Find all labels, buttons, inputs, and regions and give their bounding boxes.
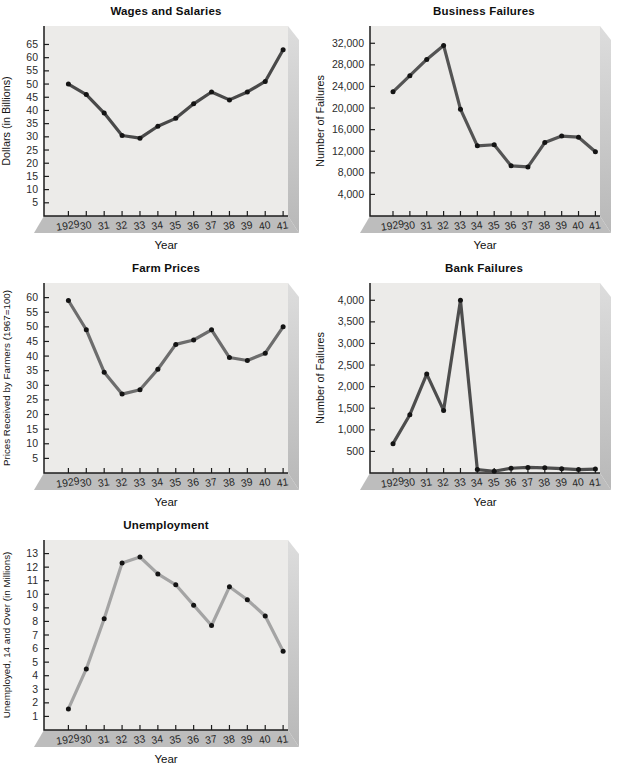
- svg-text:37: 37: [521, 218, 535, 232]
- plot-area: 5101520253035404550556065192930313233343…: [26, 26, 299, 233]
- data-point: [137, 554, 142, 559]
- data-point: [424, 372, 429, 377]
- data-point: [155, 367, 160, 372]
- svg-text:40: 40: [571, 218, 585, 232]
- y-axis-label: Unemployed, 14 and Over (in Millions): [1, 552, 12, 719]
- data-point: [509, 163, 514, 168]
- svg-text:8: 8: [32, 615, 38, 627]
- plot-area: 4,0008,00012,00016,00020,00024,00028,000…: [332, 26, 611, 233]
- data-point: [209, 327, 214, 332]
- data-point: [559, 466, 564, 471]
- svg-text:35: 35: [26, 364, 38, 376]
- svg-text:65: 65: [26, 38, 38, 50]
- svg-text:50: 50: [26, 78, 38, 90]
- data-point: [407, 73, 412, 78]
- svg-text:30: 30: [403, 218, 417, 232]
- svg-text:4,000: 4,000: [338, 188, 364, 200]
- data-point: [155, 124, 160, 129]
- svg-text:15: 15: [26, 170, 38, 182]
- plot-area: 5001,0001,5002,0002,5003,0003,5004,00019…: [338, 283, 611, 490]
- svg-text:37: 37: [521, 475, 535, 489]
- data-point: [84, 666, 89, 671]
- svg-text:2,000: 2,000: [338, 380, 364, 392]
- svg-text:24,000: 24,000: [332, 80, 364, 92]
- data-point: [227, 97, 232, 102]
- slab-side-face: [600, 283, 611, 490]
- chart-plot: 1234567891011121319293031323334353637383…: [0, 532, 312, 770]
- svg-text:4,000: 4,000: [338, 294, 364, 306]
- svg-text:35: 35: [168, 218, 182, 232]
- svg-text:31: 31: [97, 218, 111, 232]
- svg-text:37: 37: [204, 732, 218, 746]
- plot-face: [44, 283, 288, 473]
- svg-text:39: 39: [554, 475, 568, 489]
- data-point: [245, 89, 250, 94]
- x-axis-label: Year: [154, 496, 177, 508]
- svg-text:8,000: 8,000: [338, 166, 364, 178]
- svg-text:39: 39: [240, 218, 254, 232]
- data-point: [559, 134, 564, 139]
- svg-text:2,500: 2,500: [338, 359, 364, 371]
- svg-text:41: 41: [588, 475, 602, 489]
- svg-text:36: 36: [186, 732, 200, 746]
- data-point: [525, 164, 530, 169]
- chart-farm-prices: Farm Prices 5101520253035404550556019293…: [0, 257, 312, 514]
- data-point: [509, 466, 514, 471]
- chart-plot: 5101520253035404550556019293031323334353…: [0, 275, 312, 513]
- svg-text:31: 31: [97, 475, 111, 489]
- svg-text:500: 500: [346, 445, 364, 457]
- svg-text:55: 55: [26, 306, 38, 318]
- svg-text:5: 5: [32, 656, 38, 668]
- data-point: [120, 561, 125, 566]
- y-axis-label: Dollars (in Billions): [0, 76, 12, 165]
- svg-text:35: 35: [168, 732, 182, 746]
- svg-text:32: 32: [115, 475, 129, 489]
- data-point: [492, 469, 497, 474]
- svg-text:20,000: 20,000: [332, 102, 364, 114]
- y-axis-label: Number of Failures: [314, 331, 326, 423]
- svg-text:7: 7: [32, 629, 38, 641]
- chart-bank-failures: Bank Failures 5001,0001,5002,0002,5003,0…: [312, 257, 624, 514]
- data-point: [209, 623, 214, 628]
- svg-text:30: 30: [79, 475, 93, 489]
- svg-text:12,000: 12,000: [332, 145, 364, 157]
- y-ticks: 4,0008,00012,00016,00020,00024,00028,000…: [332, 37, 375, 200]
- svg-text:36: 36: [186, 475, 200, 489]
- svg-text:31: 31: [419, 218, 433, 232]
- slab-side-face: [288, 540, 299, 747]
- data-point: [441, 43, 446, 48]
- svg-text:45: 45: [26, 91, 38, 103]
- svg-text:32: 32: [115, 732, 129, 746]
- svg-text:36: 36: [504, 475, 518, 489]
- svg-text:31: 31: [97, 732, 111, 746]
- data-point: [492, 142, 497, 147]
- data-point: [525, 465, 530, 470]
- svg-text:30: 30: [79, 732, 93, 746]
- data-point: [391, 89, 396, 94]
- data-point: [84, 327, 89, 332]
- svg-text:10: 10: [26, 183, 38, 195]
- svg-text:60: 60: [26, 291, 38, 303]
- svg-text:3,500: 3,500: [338, 315, 364, 327]
- svg-text:2: 2: [32, 696, 38, 708]
- data-point: [245, 597, 250, 602]
- plot-face: [44, 540, 288, 730]
- plot-face: [370, 26, 600, 216]
- svg-text:50: 50: [26, 320, 38, 332]
- data-point: [120, 133, 125, 138]
- svg-text:38: 38: [537, 475, 551, 489]
- svg-text:4: 4: [32, 669, 38, 681]
- svg-text:36: 36: [504, 218, 518, 232]
- data-point: [593, 467, 598, 472]
- chart-plot: 5001,0001,5002,0002,5003,0003,5004,00019…: [312, 275, 624, 513]
- data-point: [475, 143, 480, 148]
- x-axis-label: Year: [473, 496, 496, 508]
- plot-area: 5101520253035404550556019293031323334353…: [26, 283, 299, 490]
- svg-text:34: 34: [470, 475, 484, 489]
- data-point: [84, 92, 89, 97]
- charts-page: Wages and Salaries 510152025303540455055…: [0, 0, 624, 773]
- svg-text:12: 12: [26, 561, 38, 573]
- data-point: [281, 47, 286, 52]
- empty-cell: [312, 514, 624, 771]
- svg-text:37: 37: [204, 218, 218, 232]
